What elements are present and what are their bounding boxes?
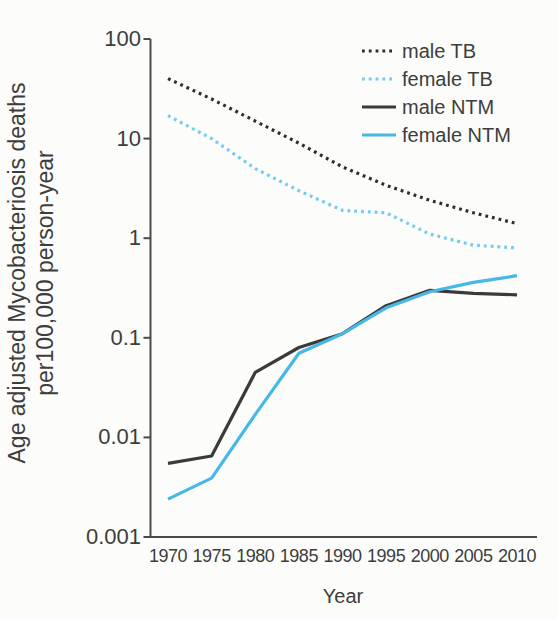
x-tick-label-1975: 1975 xyxy=(188,546,236,567)
legend-item-male-ntm: male NTM xyxy=(361,93,494,121)
x-tick-label-1985: 1985 xyxy=(275,546,323,567)
x-tick-label-1980: 1980 xyxy=(231,546,279,567)
x-tick-label-2005: 2005 xyxy=(449,546,497,567)
series-line-male-ntm xyxy=(168,290,517,463)
y-axis-title-line2: per100,000 person-year xyxy=(31,83,59,464)
y-tick-label-0.01: 0.01 xyxy=(98,423,141,451)
x-tick-label-1995: 1995 xyxy=(362,546,410,567)
x-tick-label-1990: 1990 xyxy=(319,546,367,567)
legend-item-male-tb: male TB xyxy=(361,37,476,65)
y-axis-title: Age adjusted Mycobacteriosis deaths per1… xyxy=(3,83,59,464)
y-axis-title-line1: Age adjusted Mycobacteriosis deaths xyxy=(3,83,31,464)
legend-item-female-tb: female TB xyxy=(361,65,493,93)
y-tick-label-0.1: 0.1 xyxy=(110,324,141,352)
legend-label-female-ntm: female NTM xyxy=(402,124,511,147)
y-tick-label-0.001: 0.001 xyxy=(86,523,141,551)
x-axis-title: Year xyxy=(323,585,363,608)
x-tick-label-2000: 2000 xyxy=(406,546,454,567)
x-tick-label-2010: 2010 xyxy=(493,546,541,567)
legend-label-female-tb: female TB xyxy=(402,68,493,91)
legend-label-male-tb: male TB xyxy=(402,40,476,63)
legend-swatch-female-tb xyxy=(361,74,397,84)
legend-swatch-female-ntm xyxy=(361,130,397,140)
mycobacteriosis-mortality-chart: Age adjusted Mycobacteriosis deaths per1… xyxy=(0,0,558,620)
legend-label-male-ntm: male NTM xyxy=(402,96,494,119)
y-tick-label-1: 1 xyxy=(129,224,141,252)
legend-item-female-ntm: female NTM xyxy=(361,121,511,149)
series-line-female-ntm xyxy=(168,276,517,499)
legend-swatch-male-ntm xyxy=(361,102,397,112)
y-tick-label-10: 10 xyxy=(117,125,141,153)
legend-swatch-male-tb xyxy=(361,46,397,56)
x-tick-label-1970: 1970 xyxy=(144,546,192,567)
y-tick-label-100: 100 xyxy=(104,25,141,53)
